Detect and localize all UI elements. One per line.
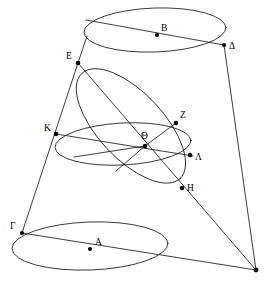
- point-dot-Kappa: [54, 132, 59, 137]
- middle-circle-diameter: [56, 134, 193, 156]
- point-dot-apex: [254, 268, 259, 273]
- point-dot-E: [76, 61, 81, 66]
- label-Zeta: Ζ: [180, 111, 186, 121]
- middle-circle: [54, 119, 192, 168]
- point-dot-A: [88, 247, 92, 251]
- cone-ruling-left-upper: [78, 36, 87, 63]
- point-dot-Eta: [180, 186, 185, 191]
- geometric-figure: Α Β Γ Δ Ε Ζ Η Θ Κ Λ: [0, 0, 270, 284]
- cone-ruling-lines: [22, 20, 256, 270]
- label-A: Α: [95, 238, 102, 248]
- label-Kappa: Κ: [44, 124, 51, 134]
- label-Delta: Δ: [229, 42, 235, 52]
- circles-and-section: [11, 6, 227, 273]
- chord-Gamma-to-apex: [22, 233, 256, 270]
- vertex-dots: [20, 33, 259, 273]
- point-dot-Gamma: [20, 231, 24, 235]
- point-dot-Delta: [222, 43, 226, 47]
- label-Theta: Θ: [141, 132, 148, 142]
- label-B: Β: [161, 24, 167, 34]
- chord-Z-Theta: [145, 123, 176, 146]
- point-dot-Lambda: [188, 153, 193, 158]
- point-dot-Zeta: [174, 121, 179, 126]
- label-Lambda: Λ: [195, 153, 202, 163]
- point-dot-Theta: [143, 144, 148, 149]
- cone-ruling-right: [224, 45, 256, 270]
- chord-E-to-Delta: [86, 20, 224, 45]
- point-dot-B: [155, 33, 159, 37]
- label-Eta: Η: [187, 184, 194, 194]
- label-Gamma: Γ: [10, 222, 16, 232]
- label-E: Ε: [66, 52, 72, 62]
- lower-base-circle: [11, 219, 169, 272]
- oblique-section-ellipse: [58, 51, 204, 201]
- cone-ruling-left: [22, 63, 78, 233]
- upper-base-circle: [83, 6, 226, 55]
